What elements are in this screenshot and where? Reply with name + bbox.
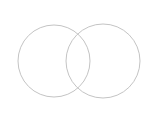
- venn-circle-right: [66, 24, 140, 98]
- venn-diagram: [0, 0, 154, 124]
- venn-circle-left: [18, 25, 90, 97]
